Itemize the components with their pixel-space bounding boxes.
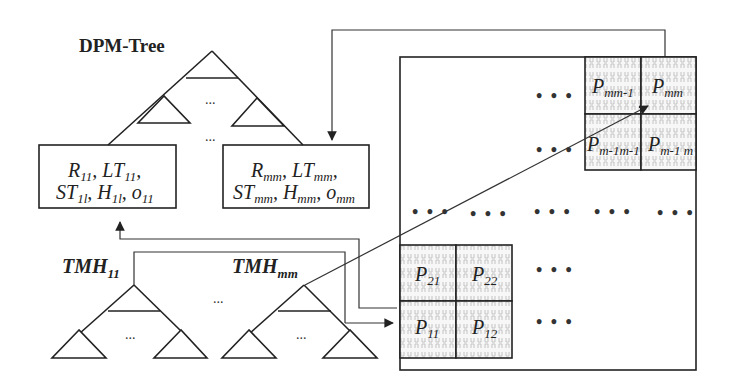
subtree-triangle — [232, 98, 284, 126]
grid-dots: • • • — [536, 260, 574, 280]
leaf-node-11: R11, LT11, ST1l, H1l, o11 — [39, 145, 176, 208]
node-mm-line2: STmm, Hmm, omm — [233, 181, 355, 206]
grid-dots: • • • — [470, 204, 508, 224]
subtree-triangle — [323, 330, 377, 358]
ellipsis-mid: ... — [205, 129, 216, 144]
ellipsis-between-tmh: ... — [213, 291, 224, 306]
dpm-tree-title: DPM-Tree — [79, 35, 165, 56]
grid-dots: • • • — [534, 202, 572, 222]
ellipsis: ... — [296, 327, 307, 342]
dpm-tree: ... ... — [108, 51, 303, 145]
node-11-line2: ST1l, H1l, o11 — [56, 181, 154, 206]
grid-dots: • • • — [536, 312, 574, 332]
tmh-mm-label: TMHmm — [232, 255, 298, 281]
grid-dots: • • • — [536, 86, 574, 106]
ellipsis: ... — [125, 327, 136, 342]
subtree-triangle — [138, 96, 190, 123]
tmh-11-tree: ... — [52, 285, 207, 358]
ellipsis-top: ... — [205, 92, 216, 107]
grid-dots: • • • — [536, 140, 574, 160]
subtree-triangle — [52, 330, 106, 358]
subtree-triangle — [154, 330, 207, 358]
leaf-node-mm: Rmm, LTmm, STmm, Hmm, omm — [223, 145, 369, 208]
dpm-tree-diagram: DPM-Tree ... ... R11, LT11, ST1l, H1l, o… — [0, 0, 729, 376]
tmh-mm-tree: ... — [222, 285, 377, 358]
tmh-11-label: TMH11 — [62, 255, 120, 281]
subtree-triangle — [222, 330, 276, 358]
partition-grid: Pmm-1 Pmm Pm-1m-1 Pm-1 m P21 P22 P11 P12… — [400, 57, 696, 370]
grid-dots: • • • — [594, 202, 632, 222]
grid-dots: • • • — [657, 203, 695, 223]
